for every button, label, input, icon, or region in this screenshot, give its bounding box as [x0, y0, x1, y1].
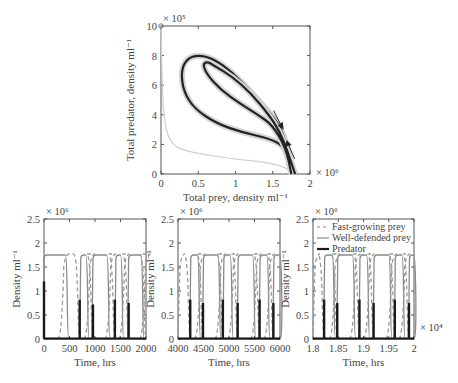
x-axis-label: Time, hrs	[74, 356, 116, 368]
legend: Fast-growing preyWell-defended preyPreda…	[317, 221, 411, 254]
x-tick-label: 0.5	[192, 178, 205, 189]
well-defended-prey-line	[44, 255, 69, 339]
x-multiplier: × 10⁴	[420, 322, 443, 333]
y-tick-label: 0	[35, 334, 40, 345]
y-axis-label: Density ml⁻¹	[279, 250, 291, 308]
y-tick-label: 0.5	[27, 310, 40, 321]
x-tick-label: 1000	[85, 343, 106, 354]
predator-spike	[114, 300, 116, 339]
trajectory-inner-cycle	[204, 62, 295, 174]
x-axis-label: Time, hrs	[343, 356, 385, 368]
y-multiplier: × 10⁶	[315, 206, 338, 217]
x-tick-label: 0	[41, 343, 46, 354]
y-tick-label: 0.5	[161, 310, 174, 321]
predator-spike	[222, 300, 224, 339]
y-tick-label: 1.5	[161, 262, 174, 273]
timeseries-panel-1: 050010001500200000.511.522.5Time, hrsDen…	[10, 206, 157, 368]
x-tick-label: 1500	[110, 343, 131, 354]
x-axis-label: Total prey, density ml⁻¹	[183, 191, 288, 203]
y-tick-label: 6	[152, 80, 157, 91]
y-tick-label: 2	[304, 238, 309, 249]
legend-label: Predator	[332, 243, 367, 254]
legend-label: Well-defended prey	[332, 232, 411, 243]
well-defended-prey-line	[115, 255, 124, 339]
y-tick-label: 1.5	[27, 262, 40, 273]
predator-spike	[43, 281, 45, 339]
y-tick-label: 2	[169, 238, 174, 249]
y-tick-label: 0	[169, 334, 174, 345]
y-tick-label: 2	[152, 139, 157, 150]
y-tick-label: 0.5	[296, 310, 309, 321]
predator-spike	[408, 303, 410, 339]
well-defended-prey-line	[203, 255, 222, 339]
y-multiplier: × 10⁶	[180, 206, 203, 217]
predator-spike	[127, 303, 129, 339]
y-axis-label: Density ml⁻¹	[10, 250, 22, 308]
predator-spike	[189, 300, 191, 339]
y-tick-label: 1	[35, 286, 40, 297]
x-multiplier: × 10⁶	[316, 167, 339, 178]
trajectory-transient	[161, 26, 291, 173]
y-tick-label: 2	[35, 238, 40, 249]
fast-growing-prey-line	[178, 254, 190, 339]
x-tick-label: 1	[233, 178, 238, 189]
x-tick-label: 1.85	[329, 343, 347, 354]
x-tick-label: 5000	[219, 343, 240, 354]
predator-spike	[202, 303, 204, 339]
y-tick-label: 1	[169, 286, 174, 297]
y-tick-label: 2.5	[27, 214, 40, 225]
y-axis-label: Density ml⁻¹	[144, 250, 156, 308]
well-defended-prey-line	[223, 255, 233, 339]
y-tick-label: 1.5	[296, 262, 309, 273]
y-tick-label: 8	[152, 51, 157, 62]
predator-spike	[236, 303, 238, 339]
predator-spike	[372, 303, 374, 339]
predator-spike	[258, 300, 260, 339]
well-defended-prey-line	[237, 255, 256, 339]
well-defended-prey-line	[92, 255, 110, 339]
y-axis-label: Total predator, density ml⁻¹	[124, 39, 136, 161]
plot-frame	[44, 219, 146, 339]
figure: 00.511.520246810Total prey, density ml⁻¹…	[0, 0, 458, 383]
y-tick-label: 2.5	[161, 214, 174, 225]
y-multiplier: × 10⁵	[163, 13, 186, 24]
timeseries-panel-3: 1.81.851.91.95200.511.522.5Time, hrsDens…	[279, 206, 443, 368]
predator-spike	[358, 300, 360, 339]
fast-growing-prey-line	[313, 254, 324, 339]
x-tick-label: 1.95	[380, 343, 398, 354]
plot-frame	[178, 219, 280, 339]
x-tick-label: 0	[158, 178, 163, 189]
x-tick-label: 6000	[270, 343, 291, 354]
y-tick-label: 1	[304, 286, 309, 297]
phase-plot: 00.511.520246810Total prey, density ml⁻¹…	[124, 13, 339, 203]
legend-label: Fast-growing prey	[332, 221, 406, 232]
x-tick-label: 1.9	[357, 343, 370, 354]
fast-growing-prey-line	[58, 254, 80, 339]
well-defended-prey-line	[80, 255, 89, 339]
y-multiplier: × 10⁶	[46, 206, 69, 217]
y-tick-label: 0	[304, 334, 309, 345]
x-tick-label: 1.5	[266, 178, 279, 189]
x-tick-label: 2	[307, 178, 312, 189]
trajectory-halo	[204, 62, 295, 174]
x-tick-label: 2000	[136, 343, 157, 354]
timeseries-panel-2: 4000450050005500600000.511.522.5Time, hr…	[144, 206, 291, 368]
predator-spike	[323, 300, 325, 339]
well-defended-prey-line	[128, 255, 145, 339]
x-tick-label: 4500	[193, 343, 214, 354]
predator-spike	[272, 303, 274, 339]
y-tick-label: 4	[152, 110, 158, 121]
well-defended-prey-line	[373, 255, 392, 339]
x-tick-label: 2	[411, 343, 416, 354]
y-tick-label: 2.5	[296, 214, 309, 225]
predator-spike	[92, 304, 94, 339]
well-defended-prey-line	[337, 255, 356, 339]
predator-spike	[394, 300, 396, 339]
y-tick-label: 10	[147, 21, 158, 32]
x-axis-label: Time, hrs	[208, 356, 250, 368]
predator-spike	[336, 303, 338, 339]
trajectory-halo	[182, 56, 294, 174]
x-tick-label: 5500	[244, 343, 265, 354]
x-tick-label: 500	[62, 343, 78, 354]
predator-spike	[79, 300, 81, 339]
